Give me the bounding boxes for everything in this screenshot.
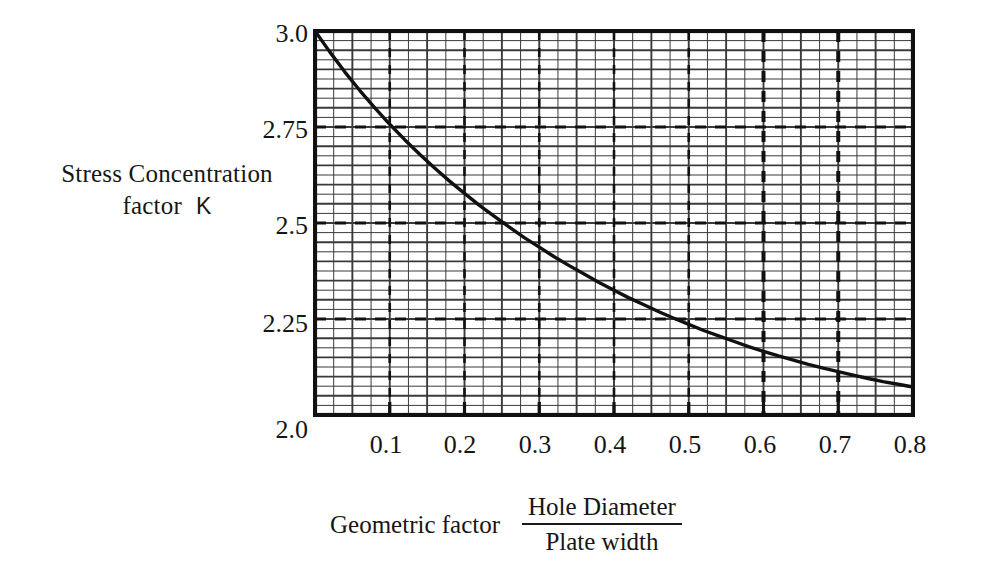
- x-axis-title-numerator: Hole Diameter: [522, 492, 682, 525]
- x-axis-title-denominator: Plate width: [545, 525, 658, 557]
- x-tick-label-0-7: 0.7: [803, 432, 867, 458]
- x-tick-label-0-6: 0.6: [728, 432, 792, 458]
- x-tick-label-0-1: 0.1: [354, 432, 418, 458]
- x-axis-title: Geometric factor Hole Diameter Plate wid…: [330, 492, 682, 557]
- x-tick-label-0-8: 0.8: [878, 432, 942, 458]
- stress-concentration-chart-figure: Stress Concentration factorK 3.0 2.75 2.…: [0, 0, 981, 574]
- plot-area: [313, 29, 915, 417]
- x-axis-title-fraction: Hole Diameter Plate width: [522, 492, 682, 557]
- x-tick-label-0-5: 0.5: [653, 432, 717, 458]
- x-axis-title-lead: Geometric factor: [330, 511, 522, 539]
- x-tick-label-0-4: 0.4: [578, 432, 642, 458]
- x-tick-label-0-3: 0.3: [503, 432, 567, 458]
- x-tick-label-0-2: 0.2: [428, 432, 492, 458]
